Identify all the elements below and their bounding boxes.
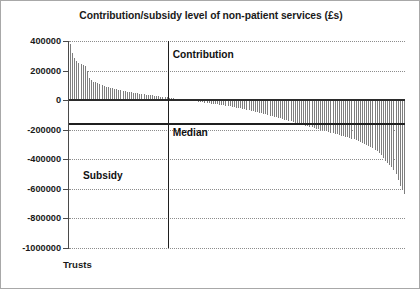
- bar: [403, 100, 405, 194]
- annotation-median: Median: [173, 127, 208, 138]
- x-axis-label: Trusts: [63, 259, 92, 270]
- y-axis-tick-label: 0: [0, 95, 61, 105]
- y-axis-tick: [63, 248, 69, 249]
- y-axis-tick-label: -200000: [0, 125, 61, 135]
- y-axis-tick-label: -400000: [0, 154, 61, 164]
- chart-title: Contribution/subsidy level of non-patien…: [1, 10, 420, 21]
- vertical-marker-line: [168, 41, 170, 248]
- y-axis-tick-label: -1000000: [0, 243, 61, 253]
- y-axis-tick-label: 200000: [0, 66, 61, 76]
- median-reference-line: [69, 123, 405, 125]
- annotation-subsidy: Subsidy: [83, 170, 123, 181]
- bars-group: [69, 41, 405, 248]
- annotation-contribution: Contribution: [173, 49, 234, 60]
- y-axis-tick-label: 400000: [0, 36, 61, 46]
- zero-reference-line: [69, 99, 405, 101]
- gridline: [69, 248, 405, 249]
- chart-figure: Contribution/subsidy level of non-patien…: [0, 0, 420, 289]
- y-axis-tick-label: -800000: [0, 213, 61, 223]
- y-axis-tick-label: -600000: [0, 184, 61, 194]
- plot-area: [69, 41, 405, 248]
